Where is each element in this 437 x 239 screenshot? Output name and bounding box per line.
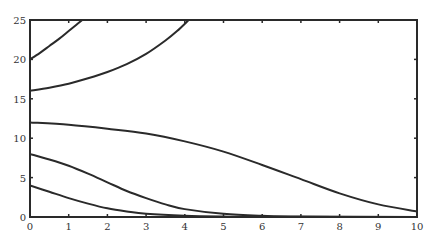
y-tick-label: 5 [20,173,26,184]
y-tick-label: 20 [13,54,26,65]
x-tick-label: 8 [336,221,342,232]
y-tick-label: 0 [20,212,26,223]
series-curve-4 [30,154,417,217]
y-tick-label: 15 [13,94,26,105]
series-curve-2 [30,20,189,91]
series-curve-1 [30,20,82,59]
x-tick-label: 2 [104,221,110,232]
line-chart: 012345678910 0510152025 [0,0,437,239]
series-curve-5 [30,185,417,217]
x-tick-label: 4 [182,221,188,232]
x-tick-label: 0 [27,221,33,232]
y-tick-label: 10 [13,133,26,144]
series-curve-3 [30,122,417,211]
plot-lines [30,20,417,217]
x-tick-label: 9 [375,221,381,232]
x-tick-label: 3 [143,221,149,232]
x-tick-label: 1 [66,221,72,232]
x-tick-label: 5 [220,221,226,232]
y-axis: 0510152025 [13,15,417,223]
x-tick-label: 10 [411,221,424,232]
x-tick-label: 6 [259,221,265,232]
x-tick-label: 7 [298,221,304,232]
plot-frame [30,20,417,217]
y-tick-label: 25 [13,15,26,26]
